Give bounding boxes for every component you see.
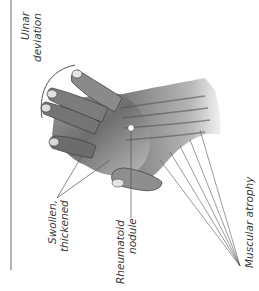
label-rheumatoid-nodule: Rheumatoid nodule (114, 218, 138, 284)
label-ulnar-deviation-line2: deviation (31, 12, 43, 62)
label-atrophy-line1: Muscular atrophy (243, 177, 255, 268)
fingernail-middle (47, 90, 57, 98)
label-swollen-thickened: Swollen, thickened (46, 200, 70, 252)
rheumatoid-nodule-marker (128, 125, 134, 131)
thumbnail (112, 179, 124, 187)
label-ulnar-deviation: Ulnar deviation (19, 12, 43, 62)
fingernail-little (49, 138, 59, 146)
label-nodule-line2: nodule (126, 218, 138, 284)
leader-swollen-1 (57, 154, 83, 198)
fingernail-ring (41, 104, 51, 112)
label-swollen-line2: thickened (58, 200, 70, 252)
rheumatoid-hand-figure: Ulnar deviation Swollen, thickened Rheum… (0, 0, 259, 291)
leader-swollen-2 (57, 160, 110, 198)
leader-atrophy-2 (170, 152, 240, 266)
label-muscular-atrophy: Muscular atrophy (243, 177, 255, 268)
label-ulnar-deviation-line1: Ulnar (19, 12, 31, 62)
leader-atrophy-1 (160, 160, 240, 266)
leader-atrophy-4 (190, 140, 240, 266)
label-nodule-line1: Rheumatoid (114, 218, 126, 284)
fingernail-index (72, 70, 82, 78)
label-swollen-line1: Swollen, (46, 200, 58, 252)
